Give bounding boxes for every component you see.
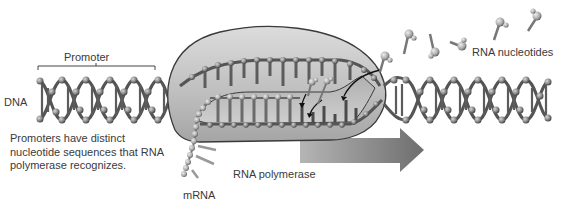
rna-nucleotides-label: RNA nucleotides — [472, 46, 553, 59]
rna-polymerase-label: RNA polymerase — [233, 168, 316, 181]
promoter-caption: Promoters have distinct nucleotide seque… — [10, 132, 195, 173]
free-rna-nucleotides — [380, 8, 542, 72]
dna-helix-left — [37, 77, 179, 124]
caption-line-3: polymerase recognizes. — [10, 159, 195, 173]
dna-helix-right — [384, 77, 552, 124]
promoter-bracket — [38, 63, 155, 70]
caption-line-2: nucleotide sequences that RNA — [10, 146, 195, 160]
dna-label: DNA — [4, 96, 27, 109]
transcription-diagram: Promoter DNA RNA nucleotides RNA polymer… — [0, 0, 562, 207]
caption-line-1: Promoters have distinct — [10, 132, 195, 146]
mrna-label: mRNA — [183, 189, 215, 202]
promoter-label: Promoter — [64, 51, 109, 64]
